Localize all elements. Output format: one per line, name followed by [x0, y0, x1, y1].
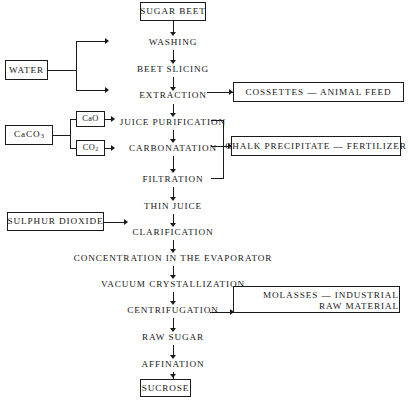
input-carbon-dioxide: CO2 — [76, 140, 105, 156]
node-filtration-label: FILTRATION — [142, 174, 203, 184]
node-sugar-beet: SUGAR BEET — [140, 2, 206, 21]
node-washing: WASHING — [149, 38, 198, 48]
connector-purification-bracket — [211, 120, 224, 121]
connector-so2-clarification — [104, 222, 126, 223]
node-sugar-beet-label: SUGAR BEET — [140, 6, 205, 17]
output-cossettes: COSSETTES — ANIMAL FEED — [233, 82, 404, 102]
connector-caco3-stem — [53, 135, 71, 136]
input-calcium-oxide: CaO — [76, 111, 105, 127]
connector-chalk-bracket — [223, 120, 224, 179]
output-chalk-precipitate-label: CHALK PRECIPITATE — FERTILIZER — [225, 141, 407, 152]
node-carbonatation: CARBONATATION — [129, 144, 217, 154]
node-raw-sugar-label: RAW SUGAR — [142, 332, 204, 342]
arrowhead-cao-purification — [111, 116, 115, 122]
node-raw-sugar: RAW SUGAR — [142, 333, 204, 343]
connector-water-stem — [48, 70, 77, 71]
node-sucrose-label: SUCROSE — [142, 383, 190, 394]
node-sucrose: SUCROSE — [140, 379, 191, 397]
node-carbonatation-label: CARBONATATION — [129, 143, 217, 153]
connector-water-bracket — [76, 41, 77, 91]
arrowhead-sucrose — [170, 374, 176, 378]
arrowhead-water-extraction — [105, 87, 109, 93]
subscript-2: 2 — [95, 146, 98, 152]
input-water-label: WATER — [9, 65, 44, 76]
output-molasses-line2: RAW MATERIAL — [234, 301, 399, 312]
node-juice-purification-label: JUICE PURIFICATION — [120, 117, 226, 127]
connector-water-washing — [76, 41, 107, 42]
input-sulphur-dioxide-label: SULPHUR DIOXIDE — [8, 216, 104, 227]
input-carbon-dioxide-label: CO2 — [83, 143, 98, 153]
input-water: WATER — [5, 60, 48, 80]
subscript-3: 3 — [41, 133, 44, 140]
node-extraction-label: EXTRACTION — [139, 90, 207, 100]
node-thin-juice: THIN JUICE — [144, 202, 202, 212]
node-affination-label: AFFINATION — [141, 359, 204, 369]
node-concentration: CONCENTRATION IN THE EVAPORATOR — [74, 254, 273, 264]
node-beet-slicing-label: BEET SLICING — [137, 64, 209, 74]
arrowhead-so2-clarification — [124, 219, 128, 225]
node-clarification: CLARIFICATION — [132, 228, 213, 238]
output-chalk-precipitate: CHALK PRECIPITATE — FERTILIZER — [231, 136, 401, 156]
node-vacuum-crystallization-label: VACUUM CRYSTALLIZATION — [101, 279, 245, 289]
node-extraction: EXTRACTION — [139, 91, 207, 101]
output-molasses-line1: MOLASSES — INDUSTRIAL — [234, 290, 399, 301]
node-centrifugation: CENTRIFUGATION — [127, 306, 219, 316]
input-sulphur-dioxide: SULPHUR DIOXIDE — [7, 212, 104, 231]
arrowhead-filtration — [170, 169, 176, 173]
output-molasses: MOLASSES — INDUSTRIAL RAW MATERIAL — [233, 286, 400, 313]
arrowhead-co2-carbonatation — [111, 145, 115, 151]
node-beet-slicing: BEET SLICING — [137, 65, 209, 75]
node-vacuum-crystallization: VACUUM CRYSTALLIZATION — [101, 280, 245, 290]
connector-filtration-bracket — [211, 178, 224, 179]
input-calcium-carbonate: CaCO3 — [5, 125, 53, 145]
arrowhead-water-washing — [105, 38, 109, 44]
input-calcium-carbonate-label: CaCO3 — [14, 129, 44, 140]
node-filtration: FILTRATION — [142, 175, 203, 185]
connector-caco3-bracket — [70, 119, 71, 149]
connector-water-extraction — [76, 90, 107, 91]
node-thin-juice-label: THIN JUICE — [144, 201, 202, 211]
node-centrifugation-label: CENTRIFUGATION — [127, 305, 219, 315]
output-cossettes-label: COSSETTES — ANIMAL FEED — [245, 87, 391, 98]
flowchart-diagram: SUGAR BEET WASHING BEET SLICING EXTRACTI… — [0, 0, 408, 405]
node-concentration-label: CONCENTRATION IN THE EVAPORATOR — [74, 253, 273, 263]
arrowhead-washing — [170, 32, 176, 36]
input-calcium-oxide-label: CaO — [82, 114, 99, 124]
node-washing-label: WASHING — [149, 37, 198, 47]
node-clarification-label: CLARIFICATION — [132, 227, 213, 237]
node-affination: AFFINATION — [141, 360, 204, 370]
